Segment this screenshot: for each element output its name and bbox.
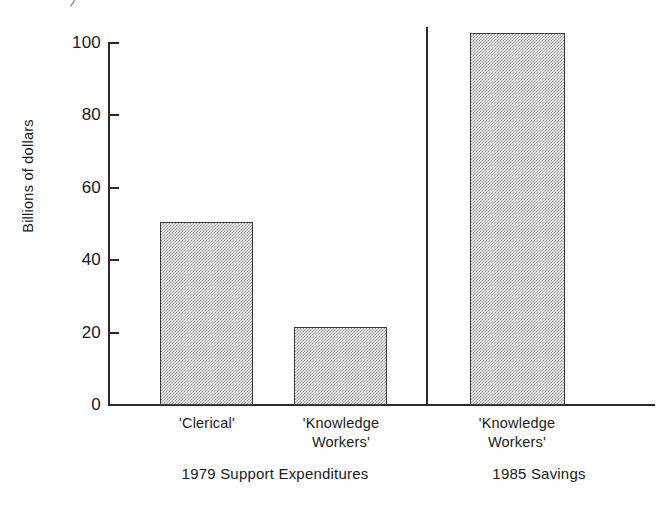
category-label-clerical-1979: 'Clerical' — [152, 414, 262, 433]
y-tick-40 — [110, 259, 119, 261]
bar-knowledge-workers-1979 — [294, 327, 387, 405]
bar-chart-figure: / Billions of dollars 100 80 60 40 20 0 … — [0, 0, 660, 507]
group-divider-line — [426, 27, 428, 406]
bar-knowledge-workers-1985 — [470, 33, 565, 405]
y-tick-label-80: 80 — [61, 106, 101, 123]
y-tick-label-20: 20 — [61, 324, 101, 341]
y-tick-100 — [110, 42, 119, 44]
y-tick-label-40: 40 — [61, 251, 101, 268]
y-tick-20 — [110, 332, 119, 334]
y-tick-60 — [110, 187, 119, 189]
group-caption-1985: 1985 Savings — [456, 465, 622, 483]
y-tick-label-0: 0 — [61, 396, 101, 413]
group-caption-1979: 1979 Support Expenditures — [152, 465, 398, 483]
y-tick-80 — [110, 114, 119, 116]
scan-artifact-mark: / — [69, 0, 89, 14]
y-axis-line — [108, 42, 110, 406]
bar-clerical-1979 — [160, 222, 253, 405]
category-label-knowledge-workers-1985: 'Knowledge Workers' — [461, 414, 573, 452]
y-axis-title: Billions of dollars — [20, 86, 36, 266]
y-tick-label-60: 60 — [61, 179, 101, 196]
category-label-knowledge-workers-1979: 'Knowledge Workers' — [285, 414, 397, 452]
y-tick-label-100: 100 — [61, 34, 101, 51]
